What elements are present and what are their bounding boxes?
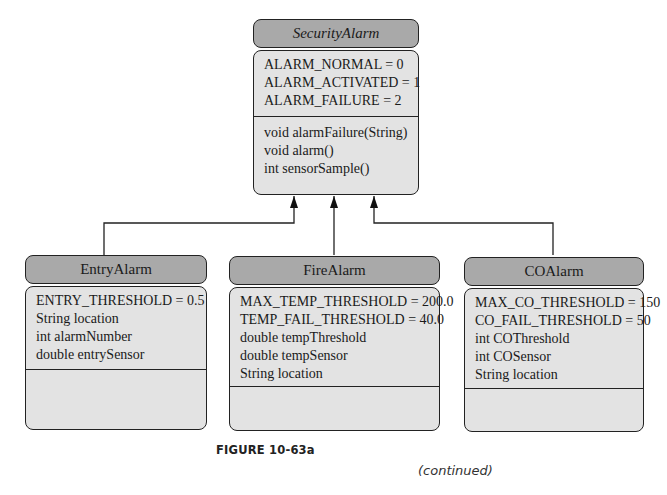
class-body: ENTRY_THRESHOLD = 0.5 String location in… [25, 286, 207, 430]
class-name: COAlarm [464, 257, 644, 286]
class-name: FireAlarm [229, 256, 440, 285]
attribute: int COSensor [475, 348, 643, 366]
section-divider [26, 369, 206, 370]
method: int sensorSample() [264, 160, 418, 178]
entry-to-security-line [104, 196, 294, 255]
attribute: int alarmNumber [36, 328, 206, 346]
section-divider [230, 386, 439, 387]
class-entry-alarm: EntryAlarm ENTRY_THRESHOLD = 0.5 String … [25, 255, 207, 430]
arrowhead-icon [330, 196, 338, 208]
attribute: MAX_TEMP_THRESHOLD = 200.0 [240, 293, 439, 311]
attribute: ALARM_NORMAL = 0 [264, 56, 418, 74]
arrowhead-icon [290, 196, 298, 208]
class-name: SecurityAlarm [253, 19, 419, 48]
attributes-section: MAX_TEMP_THRESHOLD = 200.0 TEMP_FAIL_THR… [230, 290, 439, 383]
attribute: double tempThreshold [240, 329, 439, 347]
arrowhead-icon [370, 196, 378, 208]
section-divider [465, 388, 643, 389]
attributes-section: MAX_CO_THRESHOLD = 150 CO_FAIL_THRESHOLD… [465, 291, 643, 384]
continued-note: (continued) [418, 463, 493, 478]
method: void alarm() [264, 142, 418, 160]
figure-caption: FIGURE 10-63a [216, 443, 315, 457]
attribute: String location [36, 310, 206, 328]
section-divider [254, 116, 418, 117]
class-body: ALARM_NORMAL = 0 ALARM_ACTIVATED = 1 ALA… [253, 50, 419, 195]
attribute: MAX_CO_THRESHOLD = 150 [475, 294, 643, 312]
attribute: ALARM_ACTIVATED = 1 [264, 74, 418, 92]
attributes-section: ENTRY_THRESHOLD = 0.5 String location in… [26, 289, 206, 364]
attribute: TEMP_FAIL_THRESHOLD = 40.0 [240, 311, 439, 329]
class-fire-alarm: FireAlarm MAX_TEMP_THRESHOLD = 200.0 TEM… [229, 256, 440, 431]
class-security-alarm: SecurityAlarm ALARM_NORMAL = 0 ALARM_ACT… [253, 19, 419, 195]
attribute: String location [240, 365, 439, 383]
class-body: MAX_CO_THRESHOLD = 150 CO_FAIL_THRESHOLD… [464, 288, 644, 432]
class-co-alarm: COAlarm MAX_CO_THRESHOLD = 150 CO_FAIL_T… [464, 257, 644, 432]
attribute: ALARM_FAILURE = 2 [264, 92, 418, 110]
attribute: int COThreshold [475, 330, 643, 348]
attribute: double entrySensor [36, 346, 206, 364]
method: void alarmFailure(String) [264, 124, 418, 142]
attribute: ENTRY_THRESHOLD = 0.5 [36, 292, 206, 310]
class-name: EntryAlarm [25, 255, 207, 284]
attributes-section: ALARM_NORMAL = 0 ALARM_ACTIVATED = 1 ALA… [254, 53, 418, 110]
class-body: MAX_TEMP_THRESHOLD = 200.0 TEMP_FAIL_THR… [229, 287, 440, 431]
attribute: String location [475, 366, 643, 384]
methods-section: void alarmFailure(String) void alarm() i… [254, 121, 418, 178]
attribute: double tempSensor [240, 347, 439, 365]
co-to-security-line [374, 196, 553, 255]
attribute: CO_FAIL_THRESHOLD = 50 [475, 312, 643, 330]
